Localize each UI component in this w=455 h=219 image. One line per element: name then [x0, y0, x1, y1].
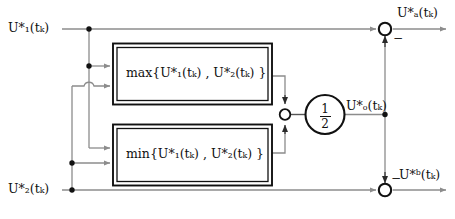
- wire-u2-to-max: [72, 82, 110, 86]
- ua-minus-sign: −: [393, 32, 403, 44]
- block-diagram: U*₁(tₖ) U*₂(tₖ) max{U*₁(tₖ) , U*₂(tₖ) } …: [0, 0, 455, 219]
- max-block-label: max{U*₁(tₖ) , U*₂(tₖ) }: [126, 67, 259, 80]
- node-u1-to-blocks-dot: [86, 63, 91, 68]
- output-label-ub: U*ᵇ(tₖ): [399, 169, 440, 182]
- node-u1-branch-dot: [86, 26, 91, 31]
- wire-min-output: [272, 125, 285, 153]
- input-label-u2: U*₂(tₖ): [8, 183, 49, 196]
- node-u2-to-blocks-dot: [69, 160, 74, 165]
- ub-minus-sign: −: [391, 172, 401, 184]
- gain-numerator: 1: [317, 103, 333, 115]
- output-label-ua: U*ₐ(tₖ): [397, 7, 438, 20]
- gain-denominator: 2: [317, 118, 333, 130]
- node-u2-branch-dot: [69, 187, 74, 192]
- signal-label-uo: U*ₒ(tₖ): [346, 100, 387, 113]
- gain-half-label: 1 2: [317, 103, 333, 130]
- min-block-label: min{U*₁(tₖ) , U*₂(tₖ) }: [126, 148, 259, 161]
- sum-junction-ub: [379, 184, 391, 196]
- wire-max-output: [272, 76, 285, 104]
- sum-junction-mid: [280, 109, 291, 120]
- sum-junction-ua: [379, 23, 391, 35]
- input-label-u1: U*₁(tₖ): [8, 22, 49, 35]
